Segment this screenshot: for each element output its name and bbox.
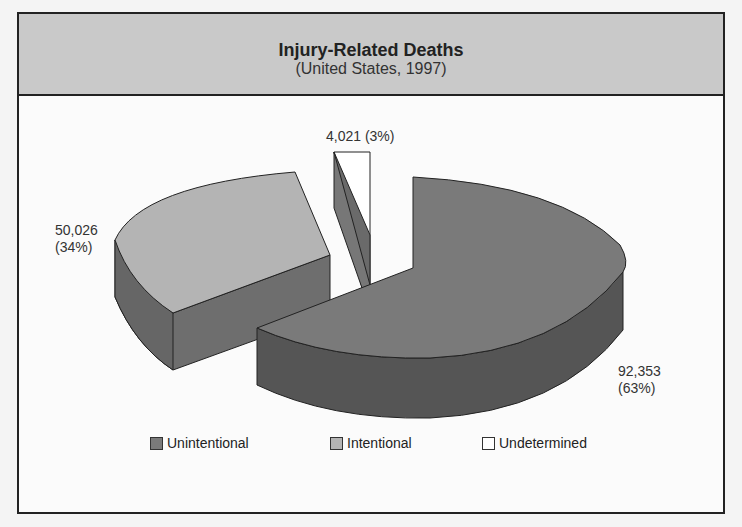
legend-label: Unintentional <box>167 435 249 451</box>
label-intentional: 50,026 (34%) <box>55 222 98 256</box>
slice-undetermined <box>334 152 370 288</box>
label-undetermined: 4,021 (3%) <box>326 128 394 145</box>
legend-item-undetermined: Undetermined <box>482 435 587 451</box>
label-intentional-value: 50,026 <box>55 222 98 239</box>
legend-swatch-icon <box>330 437 343 450</box>
legend-label: Intentional <box>347 435 412 451</box>
legend-swatch-icon <box>482 437 495 450</box>
label-intentional-pct: (34%) <box>55 239 98 256</box>
legend-swatch-icon <box>150 437 163 450</box>
legend-item-intentional: Intentional <box>330 435 412 451</box>
label-unintentional: 92,353 (63%) <box>618 363 661 397</box>
legend-item-unintentional: Unintentional <box>150 435 249 451</box>
label-unintentional-pct: (63%) <box>618 380 661 397</box>
label-unintentional-value: 92,353 <box>618 363 661 380</box>
legend-label: Undetermined <box>499 435 587 451</box>
